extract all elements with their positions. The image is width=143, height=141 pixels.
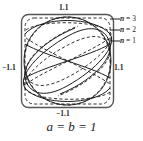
legend-eq-n3: = bbox=[126, 14, 130, 23]
legend-item-n2: n = 2 bbox=[120, 26, 136, 34]
legend-eq-n1: = bbox=[126, 36, 130, 45]
legend-item-n3: n = 3 bbox=[120, 15, 136, 23]
figure-caption: a = b = 1 bbox=[0, 120, 143, 133]
legend-eq-n2: = bbox=[126, 25, 130, 34]
legend-var-n2: n bbox=[120, 25, 124, 34]
legend-item-n1: n = 1 bbox=[120, 37, 136, 45]
legend-var-n3: n bbox=[120, 14, 124, 23]
axis-label-bottom: −1.1 bbox=[56, 110, 70, 118]
axis-label-top: 1.1 bbox=[59, 4, 68, 12]
legend-var-n1: n bbox=[120, 36, 124, 45]
axis-label-left: −1.1 bbox=[2, 64, 16, 72]
legend-value-n2: 2 bbox=[132, 25, 136, 34]
figure-container: 1.1 −1.1 −1.1 1.1 n = 3 n = 2 n = 1 a = … bbox=[0, 0, 143, 141]
legend-value-n3: 3 bbox=[132, 14, 136, 23]
axis-label-right: 1.1 bbox=[114, 64, 123, 72]
legend-value-n1: 1 bbox=[132, 36, 136, 45]
